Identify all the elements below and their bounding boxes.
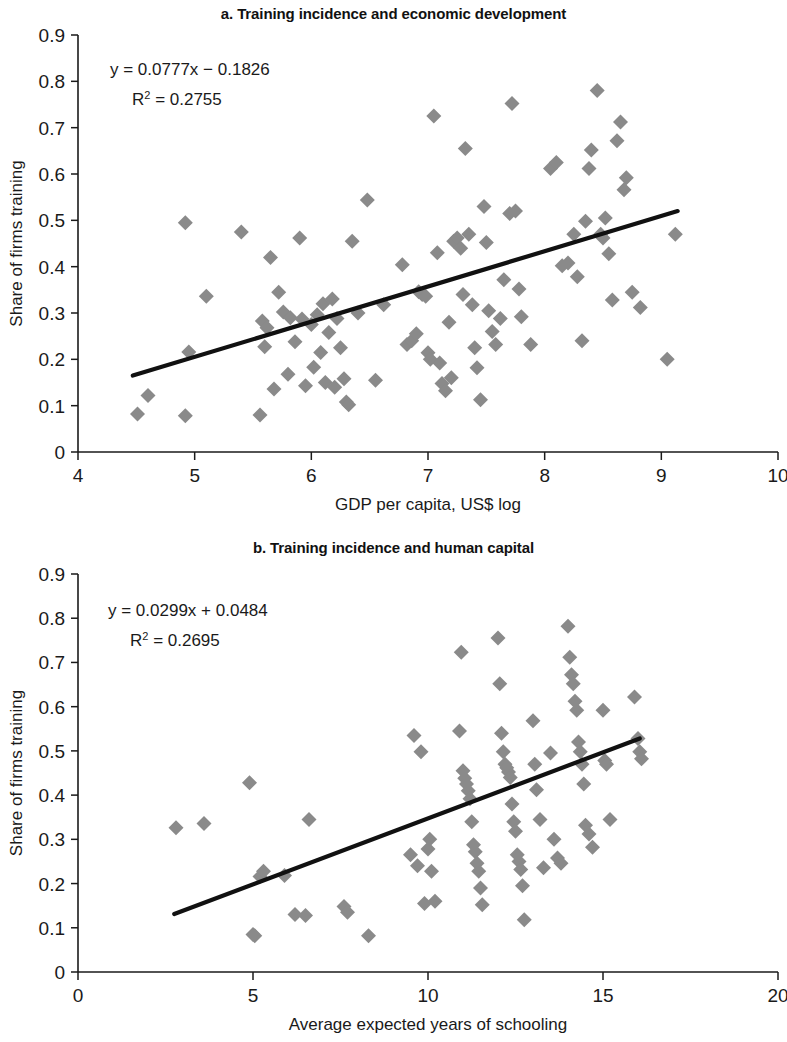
scatter-point-marker (508, 824, 523, 839)
scatter-points-group (130, 83, 683, 423)
scatter-point-marker (515, 878, 530, 893)
r-squared-annotation: R2 = 0.2695 (130, 630, 220, 650)
scatter-point-marker (633, 300, 648, 315)
scatter-point-marker (582, 161, 597, 176)
two-panel-scatter-figure: a. Training incidence and economic devel… (0, 0, 787, 1042)
x-tick-label: 9 (656, 465, 667, 486)
scatter-point-marker (496, 744, 511, 759)
scatter-point-marker (302, 812, 317, 827)
panel-b-plot: 00.10.20.30.40.50.60.70.80.905101520Aver… (0, 521, 787, 1042)
scatter-point-marker (543, 746, 558, 761)
scatter-point-marker (467, 340, 482, 355)
scatter-point-marker (292, 230, 307, 245)
y-tick-label: 0 (54, 442, 65, 463)
y-tick-label: 0.4 (39, 257, 66, 278)
scatter-point-marker (570, 269, 585, 284)
scatter-point-marker (403, 847, 418, 862)
y-tick-label: 0 (54, 962, 65, 983)
scatter-point-marker (345, 234, 360, 249)
y-axis-title: Share of firms training (7, 160, 26, 326)
y-tick-label: 0.5 (39, 210, 65, 231)
y-tick-label: 0.3 (39, 829, 65, 850)
scatter-point-marker (442, 315, 457, 330)
scatter-point-marker (527, 757, 542, 772)
x-tick-label: 6 (306, 465, 317, 486)
y-tick-label: 0.3 (39, 303, 65, 324)
scatter-point-marker (410, 858, 425, 873)
scatter-point-marker (479, 235, 494, 250)
y-tick-label: 0.2 (39, 874, 65, 895)
scatter-point-marker (234, 224, 249, 239)
x-tick-label: 7 (423, 465, 434, 486)
scatter-point-marker (505, 96, 520, 111)
scatter-point-marker (668, 227, 683, 242)
scatter-point-marker (271, 285, 286, 300)
x-tick-label: 0 (73, 985, 84, 1006)
scatter-point-marker (267, 381, 282, 396)
scatter-point-marker (422, 832, 437, 847)
y-tick-label: 0.4 (39, 785, 66, 806)
scatter-point-marker (493, 311, 508, 326)
scatter-point-marker (585, 840, 600, 855)
y-tick-label: 0.1 (39, 918, 65, 939)
scatter-point-marker (288, 334, 303, 349)
scatter-point-marker (465, 297, 480, 312)
scatter-point-marker (263, 250, 278, 265)
scatter-point-marker (485, 324, 500, 339)
regression-trendline (133, 211, 678, 375)
scatter-point-marker (458, 141, 473, 156)
scatter-point-marker (141, 388, 156, 403)
y-tick-label: 0.7 (39, 652, 65, 673)
regression-equation: y = 0.0777x − 0.1826 (110, 60, 270, 79)
scatter-point-marker (578, 214, 593, 229)
scatter-point-marker (619, 170, 634, 185)
scatter-point-marker (598, 211, 613, 226)
scatter-point-marker (601, 246, 616, 261)
scatter-point-marker (514, 309, 529, 324)
scatter-point-marker (526, 713, 541, 728)
scatter-point-marker (456, 287, 471, 302)
scatter-point-marker (395, 257, 410, 272)
x-axis-title: Average expected years of schooling (289, 1015, 567, 1034)
scatter-point-marker (298, 908, 313, 923)
x-tick-label: 15 (592, 985, 613, 1006)
x-tick-label: 5 (189, 465, 200, 486)
scatter-point-marker (533, 812, 548, 827)
y-tick-label: 0.9 (39, 25, 65, 46)
scatter-point-marker (584, 142, 599, 157)
scatter-point-marker (660, 352, 675, 367)
scatter-point-marker (491, 631, 506, 646)
scatter-point-marker (561, 619, 576, 634)
scatter-point-marker (496, 272, 511, 287)
y-tick-label: 0.8 (39, 608, 65, 629)
scatter-point-marker (313, 345, 328, 360)
y-tick-label: 0.7 (39, 118, 65, 139)
scatter-point-marker (488, 337, 503, 352)
scatter-point-marker (306, 360, 321, 375)
scatter-point-marker (130, 407, 145, 422)
scatter-point-marker (605, 293, 620, 308)
scatter-point-marker (517, 912, 532, 927)
x-tick-label: 20 (767, 985, 787, 1006)
scatter-point-marker (298, 378, 313, 393)
regression-trendline (174, 739, 640, 915)
x-axis-title: GDP per capita, US$ log (335, 495, 521, 514)
x-tick-label: 10 (417, 985, 438, 1006)
x-tick-label: 8 (539, 465, 550, 486)
scatter-point-marker (575, 333, 590, 348)
scatter-point-marker (477, 199, 492, 214)
scatter-point-marker (464, 814, 479, 829)
scatter-point-marker (603, 812, 618, 827)
y-tick-label: 0.8 (39, 71, 65, 92)
chart-panel-b: b. Training incidence and human capital … (0, 521, 787, 1042)
scatter-point-marker (562, 650, 577, 665)
scatter-point-marker (529, 782, 544, 797)
x-tick-label: 4 (73, 465, 84, 486)
y-tick-label: 0.6 (39, 697, 65, 718)
y-tick-label: 0.1 (39, 396, 65, 417)
x-tick-label: 5 (248, 985, 259, 1006)
scatter-point-marker (473, 392, 488, 407)
scatter-points-group (169, 619, 650, 944)
panel-a-plot: 00.10.20.30.40.50.60.70.80.945678910GDP … (0, 0, 787, 521)
scatter-point-marker (242, 775, 257, 790)
